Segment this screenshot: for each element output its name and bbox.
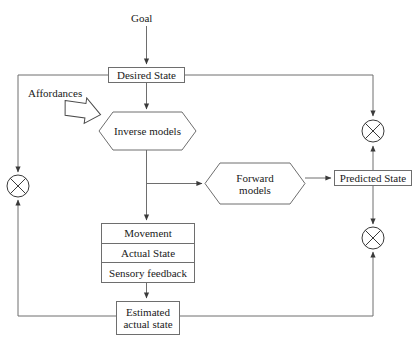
diagram-canvas: Goal Affordances Desired State Inverse m… [0,0,418,343]
forward-models-hexagon [205,163,305,204]
actual-state-row[interactable]: Actual State [102,243,194,263]
predicted-state-box[interactable]: Predicted State [334,170,412,186]
affordances-block-arrow-icon [62,95,102,125]
actual-state-label: Actual State [121,247,175,259]
movement-label: Movement [124,227,172,239]
movement-row[interactable]: Movement [102,224,194,243]
inverse-models-hexagon [99,112,196,150]
wire-estimated-to-lower-comparator [180,252,373,316]
goal-label: Goal [131,12,152,24]
effector-stack: Movement Actual State Sensory feedback [101,223,195,283]
sensory-feedback-row[interactable]: Sensory feedback [102,262,194,282]
estimated-actual-state-label-line2: actual state [123,318,172,330]
wire-desired-to-upper-comparator [185,75,374,116]
desired-state-label: Desired State [117,69,176,81]
predicted-state-label: Predicted State [340,172,406,184]
estimated-actual-state-label-line1: Estimated [126,306,170,318]
desired-state-box[interactable]: Desired State [108,67,185,83]
estimated-actual-state-box[interactable]: Estimated actual state [116,301,180,335]
affordances-label: Affordances [28,87,82,99]
sensory-feedback-label: Sensory feedback [109,267,187,279]
